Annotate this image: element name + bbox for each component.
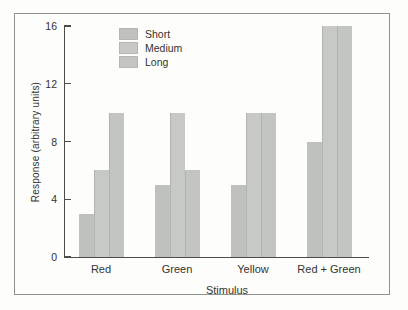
chart-frame: Response (arbitrary units) 0481216 RedGr… <box>14 13 390 295</box>
y-tick-label: 0 <box>34 251 57 263</box>
legend-row: Medium <box>119 41 182 55</box>
x-axis-title: Stimulus <box>75 284 379 296</box>
bar-medium-green <box>170 113 185 257</box>
bar-long-red <box>109 113 124 257</box>
bar-short-red-green <box>307 142 322 258</box>
legend-label-long: Long <box>145 56 168 68</box>
bar-short-green <box>155 185 170 257</box>
y-tick-label: 12 <box>34 78 57 90</box>
y-tick-mark <box>65 83 71 84</box>
bar-long-red-green <box>337 26 352 257</box>
y-tick-mark <box>65 25 71 26</box>
y-tick-mark <box>65 256 71 257</box>
legend-swatch-short <box>119 28 138 40</box>
bar-medium-red-green <box>322 26 337 257</box>
legend-label-medium: Medium <box>145 42 182 54</box>
legend-row: Short <box>119 27 182 41</box>
y-tick-mark <box>65 141 71 142</box>
bar-short-red <box>79 214 94 257</box>
figure-canvas: Response (arbitrary units) 0481216 RedGr… <box>0 0 408 310</box>
y-tick-label: 4 <box>34 193 57 205</box>
legend-label-short: Short <box>145 28 170 40</box>
plot-area: Response (arbitrary units) 0481216 RedGr… <box>65 26 369 257</box>
bar-long-green <box>185 170 200 257</box>
legend: ShortMediumLong <box>119 27 182 69</box>
y-tick-label: 16 <box>34 20 57 32</box>
bar-medium-red <box>94 170 109 257</box>
y-tick-label: 8 <box>34 136 57 148</box>
legend-swatch-long <box>119 56 138 68</box>
bar-long-yellow <box>261 113 276 257</box>
legend-row: Long <box>119 55 182 69</box>
bar-short-yellow <box>231 185 246 257</box>
y-tick-mark <box>65 199 71 200</box>
legend-swatch-medium <box>119 42 138 54</box>
bar-medium-yellow <box>246 113 261 257</box>
x-category-label: Red + Green <box>284 263 374 275</box>
